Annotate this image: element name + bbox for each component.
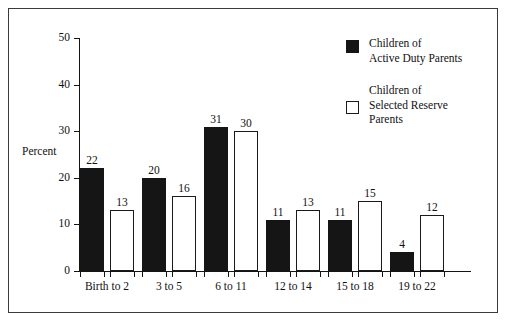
x-tick <box>328 272 329 277</box>
x-tick <box>142 272 143 277</box>
y-tick-label: 30 <box>0 123 70 137</box>
bar-value-label: 16 <box>178 182 190 195</box>
x-tick <box>258 272 259 277</box>
category-label: 12 to 14 <box>274 279 312 294</box>
y-tick-label: 10 <box>0 216 70 230</box>
bar-value-label: 13 <box>116 196 128 209</box>
legend-label-selected-reserve: Children of Selected Reserve Parents <box>369 83 448 127</box>
x-tick <box>134 272 135 277</box>
y-tick-label: 40 <box>0 77 70 91</box>
bar-value-label: 4 <box>399 238 405 251</box>
bar-value-label: 13 <box>302 196 314 209</box>
bar-value-label: 12 <box>426 201 438 214</box>
x-tick <box>172 272 173 277</box>
bar-value-label: 15 <box>364 187 376 200</box>
bar: 15 <box>358 201 382 271</box>
x-tick <box>228 272 229 277</box>
chart-figure: Percent 01020304050 22132016313011131115… <box>0 0 508 326</box>
bar: 13 <box>110 210 134 271</box>
x-tick <box>320 272 321 277</box>
y-tick-label: 20 <box>0 170 70 184</box>
bar: 12 <box>420 215 444 271</box>
bar: 4 <box>390 252 414 271</box>
x-tick <box>352 272 353 277</box>
category-label: Birth to 2 <box>85 279 129 294</box>
category-label: 6 to 11 <box>215 279 247 294</box>
bar-value-label: 31 <box>210 113 222 126</box>
category-label: 3 to 5 <box>156 279 182 294</box>
legend-label-active-duty: Children of Active Duty Parents <box>369 36 462 65</box>
bar-value-label: 22 <box>86 154 98 167</box>
y-tick-label: 0 <box>0 263 70 277</box>
legend-swatch-filled-icon <box>346 40 359 53</box>
y-axis-title: Percent <box>22 144 56 158</box>
x-tick <box>266 272 267 277</box>
x-tick <box>296 272 297 277</box>
legend-entry-selected-reserve: Children of Selected Reserve Parents <box>346 83 496 127</box>
y-tick <box>74 38 80 39</box>
bar: 11 <box>266 220 290 271</box>
bar: 31 <box>204 127 228 271</box>
x-tick <box>290 272 291 277</box>
x-tick <box>196 272 197 277</box>
x-tick <box>110 272 111 277</box>
x-tick <box>444 272 445 277</box>
bar-value-label: 20 <box>148 164 160 177</box>
bar-value-label: 11 <box>272 206 283 219</box>
x-axis-line <box>79 271 471 272</box>
bar: 20 <box>142 178 166 271</box>
bar: 11 <box>328 220 352 271</box>
bar: 30 <box>234 131 258 271</box>
bar: 16 <box>172 196 196 271</box>
x-tick <box>104 272 105 277</box>
bar-value-label: 30 <box>240 117 252 130</box>
x-tick <box>358 272 359 277</box>
x-tick <box>420 272 421 277</box>
bar: 13 <box>296 210 320 271</box>
x-tick <box>80 272 81 277</box>
y-tick-label: 50 <box>0 30 70 44</box>
category-label: 19 to 22 <box>398 279 436 294</box>
x-tick <box>414 272 415 277</box>
y-tick <box>74 131 80 132</box>
x-tick <box>204 272 205 277</box>
category-label: 15 to 18 <box>336 279 374 294</box>
bar-value-label: 11 <box>334 206 345 219</box>
x-tick <box>234 272 235 277</box>
x-tick <box>390 272 391 277</box>
y-tick <box>74 85 80 86</box>
bar: 22 <box>80 168 104 271</box>
chart-legend: Children of Active Duty Parents Children… <box>346 36 496 145</box>
x-tick <box>166 272 167 277</box>
legend-swatch-open-icon <box>346 101 359 114</box>
legend-entry-active-duty: Children of Active Duty Parents <box>346 36 496 65</box>
x-tick <box>382 272 383 277</box>
